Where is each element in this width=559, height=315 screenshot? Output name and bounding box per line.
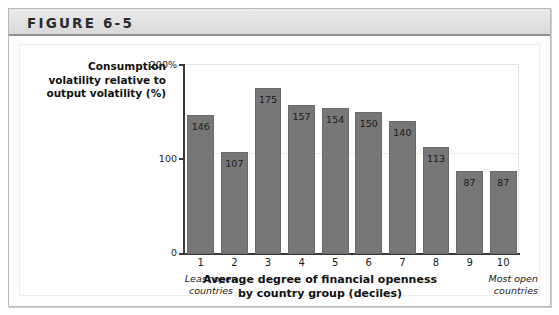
x-tick-label-6: 6 [352,257,386,268]
bar-value-label-10: 87 [491,177,516,188]
y-axis-label-line-3: output volatility (%) [22,87,166,101]
x-tick-label-7: 7 [386,257,420,268]
bar-value-label-9: 87 [457,177,482,188]
bar-value-label-6: 150 [356,118,381,129]
x-tick-label-5: 5 [318,257,352,268]
bar-3: 175 [255,88,282,254]
bar-value-label-8: 113 [424,153,449,164]
y-tick-mark-0 [179,253,183,255]
x-axis-caption-most-open: Most open countries [450,273,538,297]
x-axis-title-line-1: Average degree of financial openness [180,273,460,287]
bar-1: 146 [187,115,214,254]
bar-9: 87 [456,171,483,254]
bar-series: 1461071751571541501401138787 [184,64,520,254]
caption-right-line-1: Most open [450,273,538,285]
y-tick-mark-200 [179,64,183,66]
x-tick-label-9: 9 [453,257,487,268]
x-tick-label-2: 2 [218,257,252,268]
caption-right-line-2: countries [450,285,538,297]
bar-7: 140 [389,121,416,254]
x-tick-label-3: 3 [251,257,285,268]
x-tick-label-8: 8 [419,257,453,268]
x-axis-title-line-2: by country group (deciles) [180,287,460,301]
y-tick-label-200: 200% [137,59,177,70]
y-tick-label-100: 100 [137,153,177,164]
bar-5: 154 [322,108,349,254]
bar-value-label-3: 175 [256,94,281,105]
x-tick-label-4: 4 [285,257,319,268]
x-tick-label-1: 1 [184,257,218,268]
y-axis-label-line-2: volatility relative to [22,74,166,88]
bar-10: 87 [490,171,517,254]
bar-6: 150 [355,112,382,255]
bar-value-label-7: 140 [390,127,415,138]
bar-value-label-2: 107 [222,158,247,169]
figure-body: Consumption volatility relative to outpu… [19,44,540,296]
figure-header-band: FIGURE 6-5 [9,9,550,36]
x-axis-title: Average degree of financial openness by … [180,273,460,301]
x-tick-label-10: 10 [486,257,520,268]
bar-8: 113 [423,147,450,254]
y-tick-mark-100 [179,158,183,160]
figure-frame: FIGURE 6-5 Consumption volatility relati… [8,8,551,307]
y-tick-label-0: 0 [137,247,177,258]
figure-title: FIGURE 6-5 [27,15,134,31]
bar-value-label-1: 146 [188,121,213,132]
bar-value-label-5: 154 [323,114,348,125]
bar-2: 107 [221,152,248,254]
bar-4: 157 [288,105,315,254]
bar-value-label-4: 157 [289,111,314,122]
x-axis-tick-labels: 12345678910 [184,257,520,273]
